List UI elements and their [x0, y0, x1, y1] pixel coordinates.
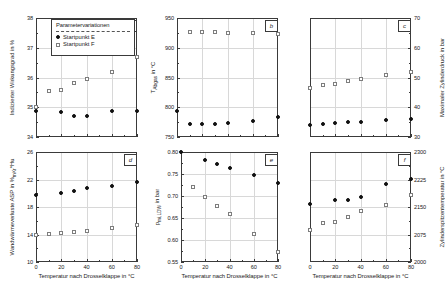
x-axis-tick — [253, 134, 254, 137]
data-point-startpunkt-f — [47, 232, 51, 236]
y-axis-tick — [408, 78, 411, 79]
x-axis-tick — [202, 134, 203, 137]
y-axis-tick — [36, 48, 39, 49]
data-point-startpunkt-f — [333, 220, 337, 224]
data-point-startpunkt-e — [276, 115, 280, 119]
x-axis-tick-label: 80 — [127, 264, 147, 270]
x-axis-tick — [278, 259, 279, 262]
y-axis-tick — [181, 218, 184, 219]
x-axis-tick-label: 40 — [220, 264, 240, 270]
y-axis-tick-label: 2075 — [414, 232, 438, 238]
x-axis-tick — [87, 259, 88, 262]
data-point-startpunkt-f — [215, 204, 219, 208]
panel-label-d: d — [124, 154, 137, 166]
gridline-vertical — [335, 153, 336, 261]
gridline-vertical — [112, 153, 113, 261]
data-point-startpunkt-f — [321, 221, 325, 225]
x-axis-tick — [36, 259, 37, 262]
data-point-startpunkt-e — [359, 195, 363, 199]
data-point-startpunkt-f — [85, 229, 89, 233]
data-point-startpunkt-f — [384, 203, 388, 207]
data-point-startpunkt-f — [188, 30, 192, 34]
data-point-startpunkt-f — [228, 212, 232, 216]
x-axis-tick — [411, 134, 412, 137]
data-point-startpunkt-e — [251, 119, 255, 123]
panel-label-f: f — [398, 154, 411, 166]
y-axis-tick-label: 2300 — [414, 149, 438, 155]
data-point-startpunkt-f — [110, 70, 114, 74]
data-point-startpunkt-f — [276, 32, 280, 36]
data-point-startpunkt-f — [409, 70, 413, 74]
gridline-vertical — [254, 153, 255, 261]
x-axis-title: Temperatur nach Drosselklappe in °C — [39, 273, 135, 279]
x-axis-minor-tick — [240, 135, 241, 137]
y-axis-tick — [36, 18, 39, 19]
data-point-startpunkt-e — [135, 109, 139, 113]
gridline-vertical — [61, 153, 62, 261]
y-axis-minor-tick — [409, 63, 411, 64]
x-axis-minor-tick — [215, 135, 216, 137]
y-axis-minor-tick — [181, 229, 183, 230]
x-axis-tick — [335, 134, 336, 137]
y-axis-tick-label: 2225 — [414, 177, 438, 183]
x-axis-tick — [181, 259, 182, 262]
data-point-startpunkt-e — [409, 177, 413, 181]
data-point-startpunkt-f — [409, 193, 413, 197]
y-axis-minor-tick — [36, 248, 38, 249]
gridline-vertical — [202, 19, 203, 136]
x-axis-tick — [230, 259, 231, 262]
data-point-startpunkt-f — [251, 31, 255, 35]
data-point-startpunkt-e — [321, 122, 325, 126]
panel-label-c: c — [398, 20, 411, 32]
legend-label: Startpunkt E — [63, 34, 95, 42]
y-axis-tick — [177, 78, 180, 79]
y-axis-title: Wandwärmeverluste ASP in %mKr*Hu — [9, 152, 17, 262]
data-point-startpunkt-f — [191, 185, 195, 189]
y-axis-tick — [36, 152, 39, 153]
x-axis-tick-label: 80 — [401, 264, 421, 270]
x-axis-tick-label: 20 — [51, 264, 71, 270]
x-axis-minor-tick — [49, 260, 50, 262]
data-point-startpunkt-f — [384, 73, 388, 77]
panel-label-e: e — [265, 154, 278, 166]
x-axis-tick — [310, 259, 311, 262]
legend-label: Startpunkt F — [63, 41, 95, 49]
x-axis-tick — [137, 134, 138, 137]
y-axis-tick — [408, 18, 411, 19]
y-axis-minor-tick — [409, 92, 411, 93]
y-axis-tick-label: 38 — [12, 15, 33, 21]
x-axis-minor-tick — [373, 260, 374, 262]
y-axis-tick — [177, 48, 180, 49]
y-axis-tick — [36, 137, 39, 138]
data-point-startpunkt-f — [359, 77, 363, 81]
data-point-startpunkt-e — [409, 117, 413, 121]
x-axis-tick-label: 40 — [351, 264, 371, 270]
data-point-startpunkt-f — [252, 232, 256, 236]
data-point-startpunkt-e — [59, 110, 63, 114]
data-point-startpunkt-f — [213, 30, 217, 34]
data-point-startpunkt-e — [213, 122, 217, 126]
data-point-startpunkt-f — [346, 215, 350, 219]
y-axis-minor-tick — [36, 221, 38, 222]
y-axis-minor-tick — [177, 92, 179, 93]
x-axis-minor-tick — [242, 260, 243, 262]
x-axis-tick — [61, 259, 62, 262]
x-axis-tick-label: 20 — [195, 264, 215, 270]
data-point-startpunkt-f — [226, 31, 230, 35]
gridline-vertical — [205, 153, 206, 261]
y-axis-tick-label: 2150 — [414, 204, 438, 210]
x-axis-tick-label: 0 — [26, 264, 46, 270]
data-point-startpunkt-f — [200, 30, 204, 34]
y-axis-minor-tick — [36, 63, 38, 64]
x-axis-minor-tick — [190, 135, 191, 137]
y-axis-tick — [177, 137, 180, 138]
x-axis-minor-tick — [348, 260, 349, 262]
x-axis-tick — [411, 259, 412, 262]
y-axis-tick — [181, 196, 184, 197]
x-axis-tick — [310, 134, 311, 137]
y-axis-tick — [36, 207, 39, 208]
y-axis-tick — [408, 48, 411, 49]
x-axis-tick — [36, 134, 37, 137]
panel-label-b: b — [265, 20, 278, 32]
data-point-startpunkt-f — [135, 223, 139, 227]
